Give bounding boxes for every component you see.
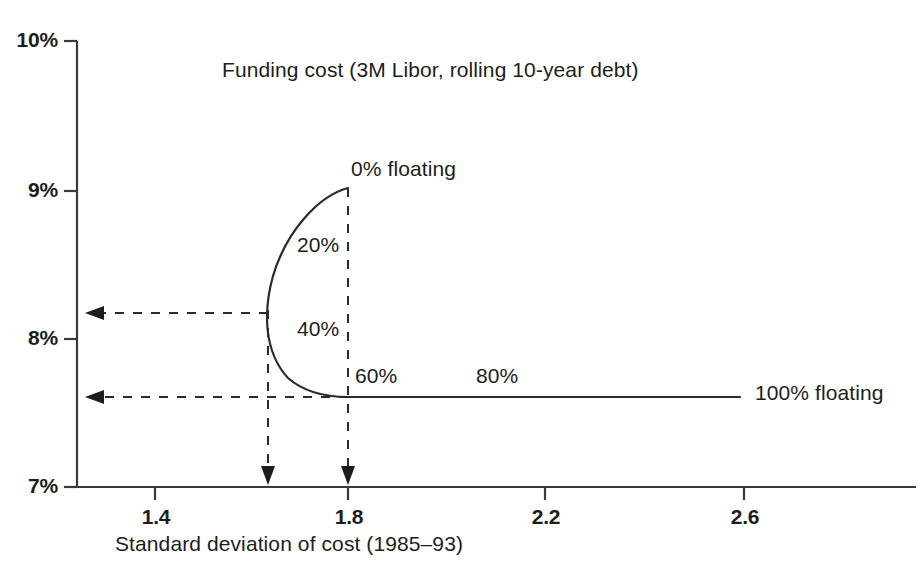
y-tick-label-7: 7% [0, 474, 58, 498]
y-tick-label-10: 10% [0, 28, 58, 52]
x-axis-title: Standard deviation of cost (1985–93) [115, 532, 463, 556]
efficient-frontier-curve [267, 188, 348, 397]
arrowhead-down-zero-floating [341, 466, 355, 485]
y-tick-label-8: 8% [0, 326, 58, 350]
x-tick-label-1-8: 1.8 [326, 505, 372, 529]
label-80-percent: 80% [476, 364, 518, 388]
y-tick-label-9: 9% [0, 178, 58, 202]
chart-plot-area [0, 0, 922, 578]
label-0-floating: 0% floating [351, 157, 456, 181]
x-axis-ticks [155, 487, 744, 500]
x-tick-label-2-2: 2.2 [523, 505, 569, 529]
chart-figure: Funding cost (3M Libor, rolling 10-year … [0, 0, 922, 578]
arrowhead-left-upper [85, 306, 104, 320]
label-20-percent: 20% [297, 233, 339, 257]
label-100-floating: 100% floating [755, 381, 884, 405]
arrowhead-left-lower [85, 390, 104, 404]
arrowhead-down-min-variance [261, 466, 275, 485]
label-40-percent: 40% [297, 317, 339, 341]
chart-title: Funding cost (3M Libor, rolling 10-year … [222, 58, 639, 82]
x-tick-label-2-6: 2.6 [722, 505, 768, 529]
y-axis-ticks [64, 41, 77, 487]
label-60-percent: 60% [355, 364, 397, 388]
x-tick-label-1-4: 1.4 [133, 505, 179, 529]
